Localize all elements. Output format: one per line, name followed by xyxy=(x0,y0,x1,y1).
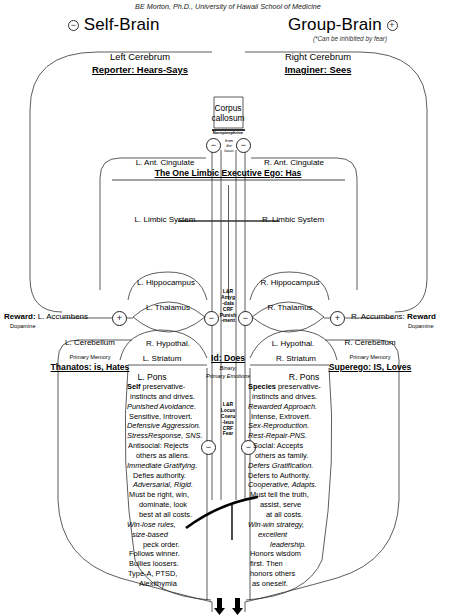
trait-line: Cooperative, Adapts. xyxy=(248,480,334,490)
trait-line: Rewarded Approach. xyxy=(248,402,334,412)
output-arrows xyxy=(214,598,243,615)
trait-line: size-based xyxy=(132,530,211,540)
trait-line: others as aliens. xyxy=(136,451,211,461)
trait-line: Alexithymia xyxy=(139,579,211,589)
group-brain-heading: Group-Brain + xyxy=(288,16,398,34)
trait-line: Defensive Aggression. xyxy=(127,421,211,431)
trait-line: as oneself. xyxy=(252,579,334,589)
amygdala-line-5: -ment xyxy=(215,318,241,324)
id-binary-label: Binary, xyxy=(220,366,237,372)
left-reward-label: Reward: xyxy=(4,312,36,321)
corpus-callosum-line-1: Corpus xyxy=(215,104,242,113)
trait-line: Sex-Reproduction. xyxy=(248,421,334,431)
right-thalamus-label: R. Thalamus xyxy=(267,304,312,312)
self-brain-label: Self-Brain xyxy=(84,15,160,34)
right-limbic-system-label: R. Limbic System xyxy=(262,216,324,224)
right-hippocampus-label: R. Hippocampus xyxy=(260,279,319,287)
trait-line: Win-win strategy, xyxy=(248,520,334,530)
left-cerebrum-role: Reporter: Hears-Says xyxy=(92,65,188,75)
trait-line: Punished Avoidance. xyxy=(127,402,211,412)
trait-line: Species preservative- xyxy=(248,382,334,392)
left-reward-group: Reward: L. Accumbens xyxy=(4,313,88,321)
superego-label: Superego: IS, Loves xyxy=(329,363,412,372)
trait-line: StressResponse, SNS. xyxy=(127,431,211,441)
trait-line: Antisocial: Rejects xyxy=(128,441,211,451)
trait-line: best at all costs. xyxy=(139,510,211,520)
trait-line: instincts and drives. xyxy=(252,392,334,402)
trait-line: Intense, Extrovert. xyxy=(251,412,334,422)
right-primary-memory-label: Primary Memory xyxy=(349,355,390,361)
trait-line: Must tell the truth, xyxy=(250,490,334,500)
left-dopamine-label: Dopamine xyxy=(10,324,36,330)
trait-line: Immediate Gratifying. xyxy=(127,461,211,471)
left-limbic-system-label: L. Limbic System xyxy=(135,216,196,224)
plus-sign-icon: + xyxy=(387,20,398,31)
corpus-callosum-line-2: callosum xyxy=(211,114,244,123)
thanatos-label: Thanatos: is, Hates xyxy=(51,363,130,372)
right-reward-group: R. Accumbens: Reward xyxy=(351,313,436,321)
trait-line: Adversarial, Rigid. xyxy=(133,480,211,490)
right-cerebrum-role: Imaginer: Sees xyxy=(285,65,352,75)
trait-line: Self preservative- xyxy=(127,382,211,392)
left-accumbens-label: L. Accumbens xyxy=(38,312,88,321)
left-hippocampus-label: L. Hippocampus xyxy=(137,279,195,287)
trait-keyword: Species xyxy=(248,382,278,391)
norepinephrine-label: Norepinephrine xyxy=(213,131,243,135)
left-thalamus-label: L. Thalamus xyxy=(146,304,190,312)
right-ant-cingulate-label: R. Ant. Cingulate xyxy=(264,159,324,167)
left-cerebrum-label: Left Cerebrum xyxy=(110,52,170,62)
right-pons-label: R. Pons xyxy=(289,373,320,382)
trait-line: others as family. xyxy=(255,451,334,461)
right-cerebellum-label: R. Cerebellum xyxy=(344,339,395,347)
trait-line: honors others xyxy=(250,569,334,579)
trait-line: assist, serve xyxy=(260,500,334,510)
trait-line: dominate, look xyxy=(139,500,211,510)
left-pons-label: L. Pons xyxy=(137,373,166,382)
trait-line: instincts and drives. xyxy=(130,392,211,402)
right-cerebrum-label: Right Cerebrum xyxy=(285,52,351,62)
trait-line: Win-lose rules, xyxy=(127,520,211,530)
trait-line: Rest-Repair-PNS. xyxy=(248,431,334,441)
trait-line: Sensitive, Introvert. xyxy=(129,412,211,422)
trait-line: Must be right, win, xyxy=(129,490,211,500)
primary-emotions-label: Primary Emotions xyxy=(206,374,250,380)
trait-line: Social: Accepts xyxy=(253,441,334,451)
right-accumbens-plus-node[interactable]: + xyxy=(330,311,345,326)
trait-line: leadership. xyxy=(270,540,334,550)
right-striatum-label: R. Striatum xyxy=(276,355,316,363)
right-reward-label: Reward xyxy=(407,312,436,321)
trait-line: Bullies loosers. xyxy=(129,559,211,569)
amygdala-column: L&R Amyg -dala CRF Punish -ment xyxy=(215,289,241,324)
left-ant-cingulate-label: L. Ant. Cingulate xyxy=(136,159,195,167)
trait-line: excellent xyxy=(258,530,334,540)
locus-source-line-3: locus xyxy=(224,149,234,153)
group-brain-label: Group-Brain xyxy=(288,15,382,34)
trait-line: first. Then xyxy=(250,559,334,569)
right-accumbens-label: R. Accumbens: xyxy=(351,312,405,321)
trait-line: Defers to Authority. xyxy=(248,471,334,481)
callosum-left-minus-node[interactable]: − xyxy=(206,138,221,153)
locus-line-5: Fear xyxy=(215,431,241,437)
limbic-executive-ego-label: The One Limbic Executive Ego: Has xyxy=(155,169,302,178)
self-brain-heading: − Self-Brain xyxy=(68,16,159,34)
left-trait-list: Self preservative-instincts and drives.P… xyxy=(127,382,211,589)
trait-line: Follows winner. xyxy=(129,549,211,559)
left-accumbens-plus-node[interactable]: + xyxy=(112,311,127,326)
left-cerebellum-label: L. Cerebellum xyxy=(65,339,115,347)
fear-inhibition-note: (*Can be inhibited by fear) xyxy=(313,36,387,43)
right-trait-list: Species preservative-instincts and drive… xyxy=(248,382,334,589)
callosum-right-minus-node[interactable]: − xyxy=(236,138,251,153)
brain-diagram: BE Morton, Ph.D., University of Hawaii S… xyxy=(0,0,457,616)
left-side-hypothalamus-label: R. Hypothal. xyxy=(146,340,190,348)
trait-line: Defers Gratification. xyxy=(248,461,334,471)
left-primary-memory-label: Primary Memory xyxy=(69,355,110,361)
trait-line: Type-A, PTSD, xyxy=(128,569,211,579)
right-side-hypothalamus-label: L. Hypothal. xyxy=(272,340,315,348)
left-striatum-label: L. Striatum xyxy=(143,355,182,363)
trait-line: peck order. xyxy=(143,540,211,550)
right-dopamine-label: Dopamine xyxy=(408,324,434,330)
trait-line: Honors wisdom xyxy=(250,549,334,559)
credit-line: BE Morton, Ph.D., University of Hawaii S… xyxy=(135,3,321,11)
trait-line: Defies authority. xyxy=(133,471,211,481)
minus-sign-icon: − xyxy=(68,20,79,31)
